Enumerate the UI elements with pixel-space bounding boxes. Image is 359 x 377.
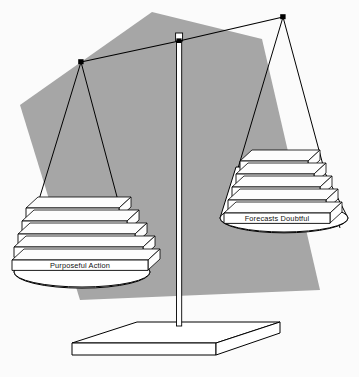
right-item-0-top-face: [240, 150, 320, 161]
center-post: [176, 33, 183, 326]
right-stack-item-4: Forecasts Doubtful: [224, 202, 342, 223]
left-item-1-top-face: [22, 210, 139, 221]
left-item-4-label: Purposeful Action: [50, 261, 110, 270]
balance-scale-diagram: Bases for Control Delegation Economies M…: [0, 0, 359, 377]
right-item-3-top-face: [228, 189, 338, 200]
left-item-3-top-face: [14, 236, 155, 247]
right-item-1-top-face: [236, 163, 326, 174]
left-item-4-top-face: [12, 249, 160, 260]
base-front-face: [72, 343, 216, 355]
pivot-center-knob: [176, 38, 181, 43]
left-item-0-top-face: [26, 197, 131, 208]
post-shaft: [177, 36, 182, 326]
right-item-4-label: Forecasts Doubtful: [245, 214, 310, 223]
left-item-2-top-face: [18, 223, 147, 234]
stand-base: [72, 322, 280, 355]
right-item-4-top-face: [224, 202, 342, 213]
right-pan-stack: Expense Time Inflexibility No Repetition: [224, 150, 342, 223]
left-stack-item-4: Purposeful Action: [12, 249, 160, 270]
right-item-2-top-face: [232, 176, 332, 187]
